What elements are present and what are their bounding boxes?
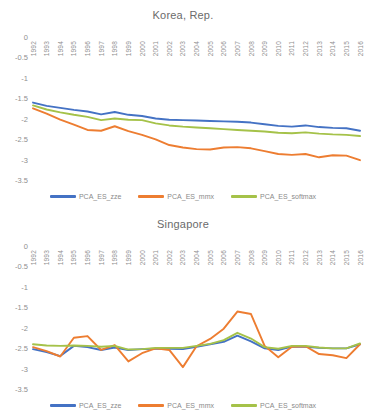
- legend-swatch-icon: [50, 195, 76, 197]
- legend-korea: PCA_ES_zzePCA_ES_mmxPCA_ES_softmax: [0, 193, 366, 200]
- legend-label: PCA_ES_mmx: [167, 402, 214, 409]
- chart-korea: Korea, Rep. 0-0.5-1-1.5-2-2.5-3-3.5 1992…: [0, 0, 366, 209]
- series-lines-singapore: [0, 209, 366, 418]
- chart-singapore: Singapore 0-0.5-1-1.5-2-2.5-3-3.5 199219…: [0, 209, 366, 418]
- legend-swatch-icon: [138, 195, 164, 197]
- legend-item-PCA_ES_zze[interactable]: PCA_ES_zze: [50, 193, 121, 200]
- series-line-PCA_ES_mmx: [33, 312, 360, 368]
- legend-item-PCA_ES_zze[interactable]: PCA_ES_zze: [50, 402, 121, 409]
- legend-item-PCA_ES_mmx[interactable]: PCA_ES_mmx: [138, 193, 214, 200]
- series-lines-korea: [0, 0, 366, 209]
- legend-label: PCA_ES_softmax: [260, 402, 316, 409]
- legend-label: PCA_ES_softmax: [260, 193, 316, 200]
- legend-singapore: PCA_ES_zzePCA_ES_mmxPCA_ES_softmax: [0, 402, 366, 409]
- legend-swatch-icon: [138, 404, 164, 406]
- plot-area-singapore: 0-0.5-1-1.5-2-2.5-3-3.5 1992199319941995…: [0, 209, 366, 418]
- legend-swatch-icon: [50, 404, 76, 406]
- legend-item-PCA_ES_softmax[interactable]: PCA_ES_softmax: [231, 402, 316, 409]
- legend-item-PCA_ES_mmx[interactable]: PCA_ES_mmx: [138, 402, 214, 409]
- legend-label: PCA_ES_mmx: [167, 193, 214, 200]
- legend-swatch-icon: [231, 404, 257, 406]
- legend-item-PCA_ES_softmax[interactable]: PCA_ES_softmax: [231, 193, 316, 200]
- legend-label: PCA_ES_zze: [79, 402, 121, 409]
- legend-label: PCA_ES_zze: [79, 193, 121, 200]
- legend-swatch-icon: [231, 195, 257, 197]
- plot-area-korea: 0-0.5-1-1.5-2-2.5-3-3.5 1992199319941995…: [0, 0, 366, 209]
